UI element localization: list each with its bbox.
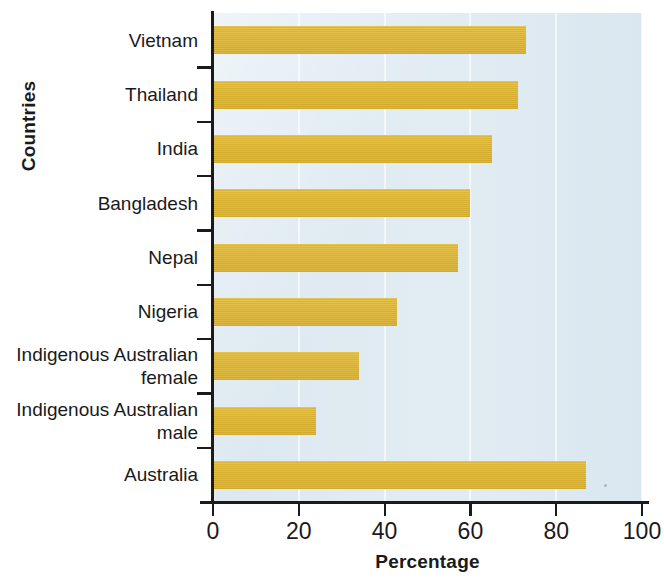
bar-vietnam (213, 26, 526, 54)
x-tick-label-40: 40 (350, 517, 420, 545)
gridline-100 (641, 13, 642, 502)
x-tick-20 (298, 503, 300, 516)
y-tick-label-australia: Australia (0, 463, 198, 486)
x-tick-40 (384, 503, 386, 516)
y-tick-label-indigenous-australian-female: Indigenous Australian female (0, 343, 198, 389)
x-tick-label-100: 100 (607, 517, 664, 545)
y-tick-6 (197, 338, 212, 340)
x-tick-80 (555, 503, 557, 516)
y-tick-1 (197, 66, 212, 68)
y-tick-2 (197, 121, 212, 123)
bar-thailand (213, 81, 518, 109)
y-tick-8 (197, 447, 212, 449)
x-tick-60 (469, 503, 471, 516)
bar-nepal (213, 244, 458, 272)
x-tick-label-0: 0 (178, 517, 248, 545)
y-tick-label-nigeria: Nigeria (0, 300, 198, 323)
bar-bangladesh (213, 189, 470, 217)
y-tick-label-indigenous-australian-male: Indigenous Australian male (0, 398, 198, 444)
y-tick-4 (197, 229, 212, 231)
bar-indigenous-australian-male (213, 407, 316, 435)
y-tick-3 (197, 175, 212, 177)
gridline-80 (555, 13, 557, 502)
y-tick-label-bangladesh: Bangladesh (0, 192, 198, 215)
x-tick-label-60: 60 (435, 517, 505, 545)
y-axis-tick-labels: Vietnam Thailand India Bangladesh Nepal … (0, 13, 206, 502)
bar-india (213, 135, 492, 163)
y-tick-5 (197, 284, 212, 286)
x-axis-title: Percentage (213, 551, 642, 573)
bar-australia (213, 461, 586, 489)
scan-artifact-speck (604, 484, 607, 487)
x-tick-label-20: 20 (264, 517, 334, 545)
x-tick-label-80: 80 (521, 517, 591, 545)
y-tick-label-nepal: Nepal (0, 246, 198, 269)
y-tick-label-vietnam: Vietnam (0, 29, 198, 52)
y-tick-7 (197, 392, 212, 394)
x-tick-0 (212, 503, 214, 516)
y-tick-label-thailand: Thailand (0, 83, 198, 106)
bar-nigeria (213, 298, 397, 326)
x-axis-line (200, 501, 649, 504)
plot-area (213, 13, 642, 502)
bar-indigenous-australian-female (213, 352, 359, 380)
y-tick-label-india: India (0, 137, 198, 160)
bar-chart: Countries Vietnam Thailand India Banglad… (0, 0, 664, 588)
y-axis-line (211, 11, 214, 504)
x-tick-100 (641, 503, 643, 516)
